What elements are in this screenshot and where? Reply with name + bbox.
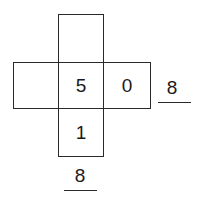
answer-bottom-underline [64, 190, 97, 191]
answer-bottom: 8 [64, 165, 96, 187]
face-left [13, 62, 59, 109]
answer-right: 8 [156, 77, 188, 99]
face-right: 0 [103, 62, 151, 109]
face-top [58, 14, 104, 63]
answer-right-underline [158, 102, 191, 103]
face-center: 5 [58, 62, 104, 109]
face-bottom: 1 [58, 108, 104, 157]
